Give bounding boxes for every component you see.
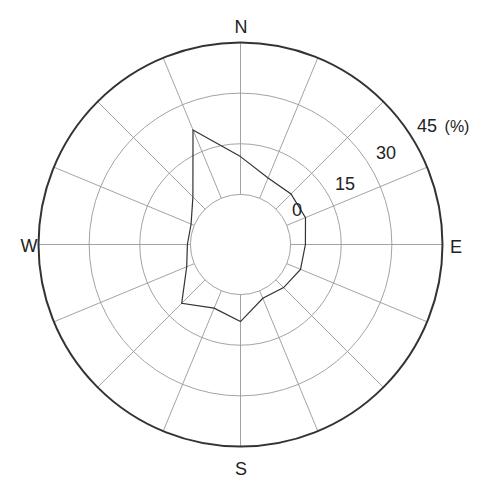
grid-ring-0	[190, 194, 290, 294]
east-label: E	[450, 237, 462, 257]
spoke-SSE	[260, 291, 318, 431]
west-label: W	[21, 236, 38, 256]
tick-label-0: 0	[292, 200, 302, 220]
spoke-WNW	[54, 167, 194, 225]
spoke-NNE	[260, 58, 318, 198]
south-label: S	[235, 459, 247, 479]
spoke-NE	[276, 102, 383, 209]
polar-grid	[39, 43, 443, 447]
wind-rose-chart: N S W E 0 15 30 45 (%)	[0, 0, 481, 489]
spoke-NW	[98, 102, 205, 209]
tick-label-45: 45	[417, 116, 437, 136]
north-label: N	[235, 17, 248, 37]
radial-unit-label: (%)	[445, 118, 470, 135]
spoke-WSW	[54, 264, 194, 322]
tick-label-15: 15	[335, 174, 355, 194]
spoke-SE	[276, 280, 383, 387]
spoke-SSW	[163, 291, 221, 431]
tick-label-30: 30	[376, 143, 396, 163]
spoke-NNW	[163, 58, 221, 198]
spoke-SW	[98, 280, 205, 387]
spoke-ENE	[287, 167, 427, 225]
spoke-ESE	[287, 264, 427, 322]
